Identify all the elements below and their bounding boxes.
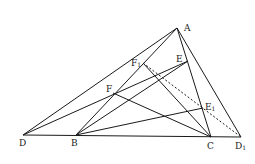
point-label-d: D <box>19 138 26 148</box>
segment-b-e1 <box>76 108 203 135</box>
point-label-b: B <box>71 138 78 148</box>
segment-a-d1 <box>177 28 241 137</box>
geometry-figure: ADBCD1EF1FE1 <box>0 0 255 164</box>
segment-f-c <box>113 93 211 137</box>
point-label-e1: E1 <box>205 102 215 112</box>
segment-b-a <box>76 28 177 135</box>
segment-f1-c <box>143 63 211 137</box>
segment-a-c <box>177 28 211 137</box>
point-label-d1: D1 <box>235 141 246 151</box>
point-label-f1: F1 <box>131 58 141 68</box>
point-label-a: A <box>183 23 191 33</box>
point-label-e: E <box>176 54 183 64</box>
point-label-c: C <box>207 141 214 151</box>
segment-d-e <box>23 61 188 135</box>
point-label-f: F <box>106 84 112 94</box>
segment-b-e <box>76 61 188 135</box>
